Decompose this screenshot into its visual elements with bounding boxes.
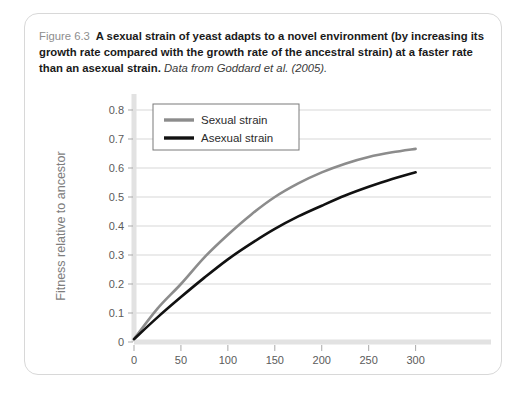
legend-label: Asexual strain (201, 132, 273, 144)
y-tick-label: 0.7 (109, 133, 124, 145)
plot-wrap: 050100150200250300 00.10.20.30.40.50.60.… (25, 92, 501, 374)
y-tick-label: 0.1 (109, 307, 124, 319)
x-tick-label: 50 (175, 354, 187, 366)
y-tick-label: 0.4 (109, 220, 124, 232)
x-tick-label: 200 (313, 354, 331, 366)
chart-area: 050100150200250300 00.10.20.30.40.50.60.… (25, 92, 501, 374)
figure-card: Figure 6.3 A sexual strain of yeast adap… (24, 13, 502, 375)
line-chart: 050100150200250300 00.10.20.30.40.50.60.… (25, 92, 501, 374)
x-tick-label: 0 (131, 354, 137, 366)
y-tick-label: 0.2 (109, 278, 124, 290)
series-line (134, 149, 416, 339)
y-tick-label: 0 (118, 336, 124, 348)
y-axis-title: Fitness relative to ancestor (54, 151, 68, 300)
x-tick-label: 150 (266, 354, 284, 366)
x-tick-label: 300 (406, 354, 424, 366)
figure-label: Figure 6.3 (39, 30, 90, 42)
legend-label: Sexual strain (201, 114, 267, 126)
x-tick-label: 250 (359, 354, 377, 366)
figure-caption: Figure 6.3 A sexual strain of yeast adap… (39, 28, 489, 77)
y-tick-label: 0.8 (109, 104, 124, 116)
y-axis-ticks: 00.10.20.30.40.50.60.70.8 (109, 104, 133, 348)
y-tick-label: 0.5 (109, 191, 124, 203)
figure-source: Data from Goddard et al. (2005). (164, 62, 327, 74)
data-series (134, 149, 416, 339)
x-tick-label: 100 (219, 354, 237, 366)
y-tick-label: 0.6 (109, 162, 124, 174)
chart-legend: Sexual strainAsexual strain (153, 104, 299, 150)
y-tick-label: 0.3 (109, 249, 124, 261)
x-axis-ticks: 050100150200250300 (131, 345, 425, 366)
